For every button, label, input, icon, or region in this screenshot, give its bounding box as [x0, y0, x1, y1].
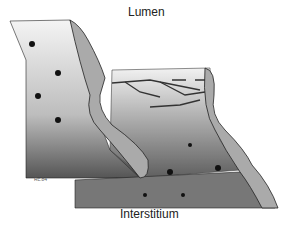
illustration [0, 0, 289, 229]
interstitium-label: Interstitium [120, 207, 179, 221]
lumen-label: Lumen [128, 5, 165, 19]
artist-signature: Rc.84 [34, 176, 47, 182]
